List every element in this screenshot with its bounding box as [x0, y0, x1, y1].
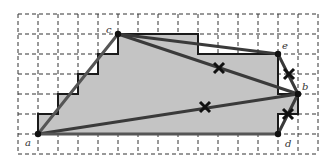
lattice-diagram: abcde	[0, 0, 335, 164]
vertex-label-e: e	[282, 40, 288, 51]
vertex-label-c: c	[106, 24, 112, 35]
vertex-label-a: a	[25, 137, 31, 148]
vertex-label-b: b	[302, 81, 308, 92]
vertex-e	[275, 51, 281, 57]
vertex-b	[295, 91, 301, 97]
vertex-label-d: d	[285, 138, 291, 149]
vertex-d	[275, 131, 281, 137]
vertex-c	[115, 31, 121, 37]
vertex-a	[35, 131, 41, 137]
